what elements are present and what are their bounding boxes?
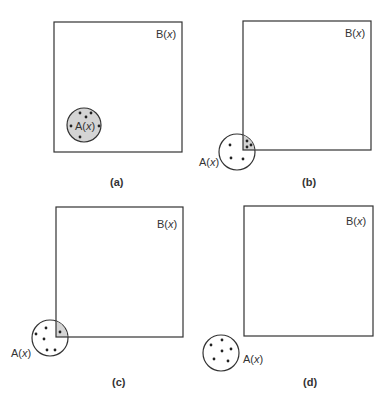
panel-a: B(x) A(x) (a): [54, 22, 182, 188]
panel-d: B(x) A(x) (d): [203, 206, 373, 388]
panel-caption: (c): [112, 376, 126, 388]
set-b-label: B(x): [156, 28, 176, 40]
set-a-circle: [32, 320, 68, 356]
set-a-label: A(x): [75, 120, 95, 132]
set-b-label: B(x): [345, 27, 365, 39]
set-a-label: A(x): [11, 347, 31, 359]
set-a-circle: [219, 134, 255, 170]
set-a-label: A(x): [243, 353, 263, 365]
panel-caption: (d): [303, 376, 317, 388]
set-a-label: A(x): [199, 156, 219, 168]
panel-b: B(x) A(x) (b): [199, 21, 371, 188]
set-b-label: B(x): [346, 215, 366, 227]
panel-caption: (b): [302, 176, 316, 188]
panel-c: B(x) A(x) (c): [11, 207, 183, 388]
panel-caption: (a): [110, 176, 124, 188]
set-b-box: [243, 21, 371, 150]
venn-diagram-figure: B(x) A(x) (a) B(x) A(x) (b): [0, 0, 387, 399]
set-b-label: B(x): [157, 218, 177, 230]
